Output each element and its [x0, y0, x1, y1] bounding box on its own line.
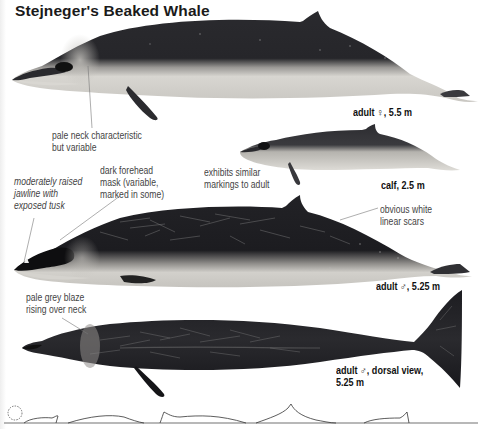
annotation-line: but variable: [52, 142, 142, 154]
annotation-line: markings to adult: [204, 179, 269, 191]
annotation-scars: obvious white linear scars: [380, 204, 432, 228]
annotation-line: exhibits similar: [204, 167, 269, 179]
caption-line: 5.25 m: [336, 376, 423, 388]
annotation-grey-blaze: pale grey blaze rising over neck: [26, 292, 86, 316]
surfacing-back: [68, 416, 144, 423]
annotation-jawline: moderately raised jawline with exposed t…: [14, 176, 82, 212]
whale-adult-female: [12, 11, 478, 120]
annotation-line: pale neck characteristic: [52, 130, 142, 142]
annotation-calf-markings: exhibits similar markings to adult: [204, 167, 269, 191]
leader-line-jawline: [24, 218, 34, 262]
caption-adult-male-dorsal: adult ♂, dorsal view, 5.25 m: [336, 364, 423, 388]
annotation-line: moderately raised: [14, 176, 82, 188]
leader-line-scars: [340, 208, 378, 220]
annotation-forehead-mask: dark forehead mask (variable, marked in …: [100, 165, 164, 201]
surfacing-sequence: [4, 404, 478, 423]
annotation-line: pale grey blaze: [26, 292, 86, 304]
surfacing-head: [24, 416, 58, 423]
annotation-line: linear scars: [380, 216, 432, 228]
annotation-line: rising over neck: [26, 304, 86, 316]
caption-adult-male: adult ♂, 5.25 m: [376, 280, 440, 292]
caption-calf: calf, 2.5 m: [381, 179, 425, 191]
annotation-line: obvious white: [380, 204, 432, 216]
caption-adult-female: adult ♀, 5.5 m: [353, 106, 412, 118]
annotation-line: mask (variable,: [100, 177, 164, 189]
annotation-line: marked in some): [100, 189, 164, 201]
surfacing-tail-stock: [364, 412, 409, 423]
annotation-pale-neck: pale neck characteristic but variable: [52, 130, 142, 154]
surfacing-low-fin: [160, 412, 246, 423]
annotation-line: jawline with: [14, 188, 82, 200]
blow-icon: [8, 406, 22, 420]
field-guide-page: Stejneger's Beaked Whale: [0, 0, 492, 429]
caption-line: adult ♂, dorsal view,: [336, 364, 423, 376]
surfacing-dorsal-fin: [256, 404, 336, 423]
annotation-line: exposed tusk: [14, 200, 82, 212]
annotation-line: dark forehead: [100, 165, 164, 177]
whale-calf: [240, 124, 460, 185]
